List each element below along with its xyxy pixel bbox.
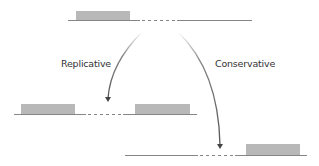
replicative-arrow (108, 32, 142, 98)
replicative-arrowhead-icon (105, 97, 111, 102)
conservative-arrowhead-icon (217, 144, 223, 149)
conservative-arrow (178, 32, 220, 145)
donor-chromosome (68, 11, 252, 21)
transposon-box-moved (246, 144, 300, 155)
conservative-product (125, 144, 307, 156)
transposon-box-original (21, 104, 75, 114)
transposon-box (76, 11, 130, 20)
transposon-box-copy (135, 104, 190, 114)
replicative-label: Replicative (61, 58, 111, 69)
replicative-product (14, 104, 197, 115)
conservative-label: Conservative (215, 58, 275, 69)
diagram-canvas (0, 0, 319, 166)
